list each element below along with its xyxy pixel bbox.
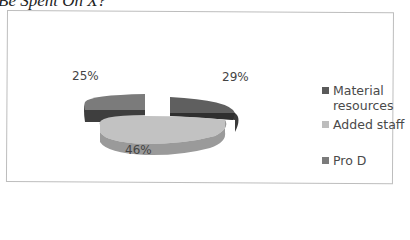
pie-chart — [35, 70, 295, 170]
legend-item-added-staff: Added staff — [322, 117, 410, 132]
label-added-staff: 46% — [125, 143, 152, 157]
legend-item-material-resources: Material resources — [322, 83, 410, 113]
label-material-resources: 29% — [222, 70, 249, 84]
legend-label: Pro D — [333, 153, 366, 168]
legend-swatch-icon — [322, 87, 329, 94]
slice-added-staff — [100, 115, 227, 155]
legend-swatch-icon — [322, 121, 329, 128]
legend-label: Material resources — [333, 83, 410, 113]
label-pro-d: 25% — [72, 69, 99, 83]
legend-item-pro-d: Pro D — [322, 153, 410, 168]
legend-swatch-icon — [322, 157, 329, 164]
legend-label: Added staff — [333, 117, 404, 132]
chart-legend: Material resources Added staff Pro D — [322, 83, 410, 168]
